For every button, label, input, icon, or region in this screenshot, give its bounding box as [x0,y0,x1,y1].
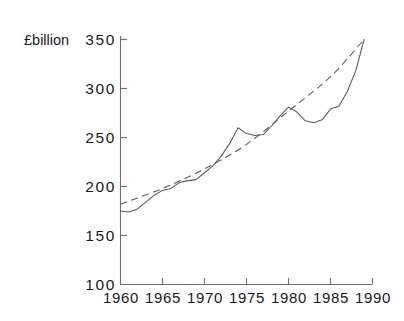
series-line-actual [121,40,365,212]
x-axis-ticks [121,278,373,285]
y-tick-label-250: 250 [85,129,116,146]
x-tick-label-1960: 1960 [103,289,139,306]
unit-label: £billion [24,32,69,48]
y-axis-tick-labels: 350 300 250 200 150 100 [85,31,116,293]
x-tick-label-1965: 1965 [145,289,181,306]
series-line-trend [121,40,365,205]
y-tick-label-300: 300 [85,80,116,97]
y-tick-label-350: 350 [85,31,116,48]
x-tick-label-1970: 1970 [187,289,223,306]
chart-container: 350 300 250 200 150 100 1960 1965 [0,0,404,321]
x-tick-label-1990: 1990 [355,289,391,306]
line-chart: 350 300 250 200 150 100 1960 1965 [0,0,404,321]
y-tick-label-150: 150 [85,227,116,244]
x-tick-label-1975: 1975 [229,289,265,306]
x-tick-label-1985: 1985 [313,289,349,306]
y-tick-label-200: 200 [85,178,116,195]
x-axis: 1960 1965 1970 1975 1980 1985 1990 [103,278,391,306]
x-axis-tick-labels: 1960 1965 1970 1975 1980 1985 1990 [103,289,391,306]
y-axis: 350 300 250 200 150 100 [85,31,127,293]
x-tick-label-1980: 1980 [271,289,307,306]
y-axis-ticks [121,40,128,285]
